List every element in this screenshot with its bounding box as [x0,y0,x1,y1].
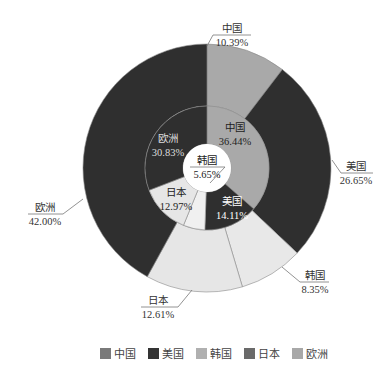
inner-label-europe-value: 30.83% [152,147,185,158]
outer-label-korea-value: 8.35% [301,284,328,295]
outer-label-usa-value: 26.65% [340,175,373,186]
legend-item-korea[interactable]: 韩国 [196,345,232,361]
legend-item-japan[interactable]: 日本 [244,345,280,361]
legend-swatch-europe [292,348,303,359]
inner-label-japan-value: 12.97% [160,201,193,212]
legend-swatch-japan [244,348,255,359]
legend-swatch-korea [196,348,207,359]
inner-label-usa-value: 14.11% [216,210,248,221]
inner-label-korea-value: 5.65% [193,169,220,180]
outer-label-usa-name: 美国 [346,160,366,172]
legend-item-europe[interactable]: 欧洲 [292,345,328,361]
legend-label: 欧洲 [306,345,328,361]
legend-label: 日本 [258,345,280,361]
outer-label-china-name: 中国 [222,22,242,34]
legend-item-usa[interactable]: 美国 [148,345,184,361]
inner-label-china-value: 36.44% [219,136,252,147]
outer-label-europe-name: 欧洲 [35,202,55,213]
inner-label-china-name: 中国 [225,121,245,133]
outer-label-china-value: 10.39% [216,37,249,48]
inner-label-usa-name: 美国 [222,195,242,207]
legend-item-china[interactable]: 中国 [100,345,136,361]
legend: 中国 美国 韩国 日本 欧洲 [100,345,328,361]
legend-swatch-china [100,348,111,359]
legend-label: 美国 [162,345,184,361]
legend-swatch-usa [148,348,159,359]
outer-label-japan-value: 12.61% [142,309,175,320]
outer-label-europe-value: 42.00% [29,216,62,227]
inner-label-korea-name: 韩国 [197,154,217,166]
legend-label: 韩国 [210,345,232,361]
outer-label-korea-name: 韩国 [305,269,325,281]
nested-donut-chart: 中国 10.39% 美国 26.65% 韩国 8.35% 日本 12.61% 欧… [0,0,391,372]
outer-label-japan-name: 日本 [148,294,169,306]
inner-label-japan-name: 日本 [166,186,187,198]
inner-label-europe-name: 欧洲 [158,133,178,144]
legend-label: 中国 [114,345,136,361]
